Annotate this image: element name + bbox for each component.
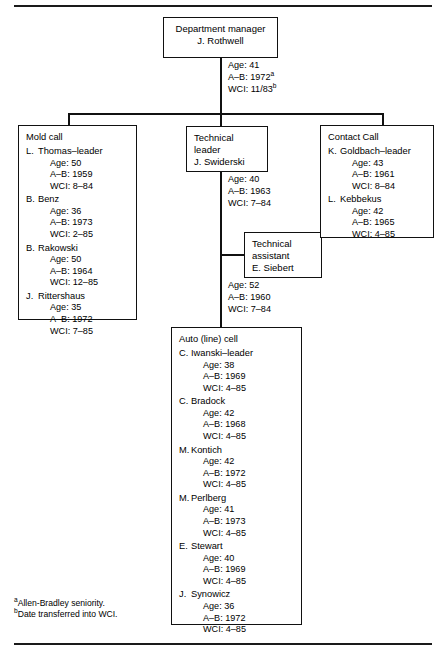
auto-cell-heading: Auto (line) cell [179,333,294,346]
list-item: J.Rittershaus Age: 35 A–B: 1972 WCI: 7–8… [26,290,129,337]
page-rule-top [14,5,432,7]
footnote-a: aAllen-Bradley seniority. [14,598,118,609]
footnote-ref-b: b [273,82,277,89]
technical-assistant-ab: A–B: 1960 [228,292,271,304]
technical-leader-wci: WCI: 7–84 [228,198,271,210]
node-mold-call[interactable]: Mold call L.Thomas–leader Age: 50 A–B: 1… [18,125,137,320]
person-ab: A–B: 1973 [26,217,129,229]
page-rule-bottom [14,643,432,645]
person-wci: WCI: 8–84 [328,181,426,193]
person-ab: A–B: 1973 [179,516,294,528]
mold-call-member-list: L.Thomas–leader Age: 50 A–B: 1959 WCI: 8… [26,145,129,337]
connector-drop-technical-leader [220,113,222,126]
technical-assistant-name: E. Siebert [252,262,314,274]
person-ab: A–B: 1964 [26,266,129,278]
connector-manager-down [220,58,222,114]
list-item: L.Kebbekus Age: 42 A–B: 1965 WCI: 4–85 [328,193,426,240]
person-wci: WCI: 2–85 [26,229,129,241]
list-item: K.Goldbach–leader Age: 43 A–B: 1961 WCI:… [328,145,426,192]
footnote-b: bDate transferred into WCI. [14,609,118,620]
person-name: E.Stewart [179,540,294,553]
connector-spine-technical-leader [220,172,222,327]
technical-assistant-title-1: Technical [252,238,314,250]
person-name: L.Thomas–leader [26,145,129,158]
node-auto-line-cell[interactable]: Auto (line) cell C.Iwanski–leader Age: 3… [171,327,302,625]
person-name: B.Benz [26,193,129,206]
person-name: C.Iwanski–leader [179,347,294,360]
technical-leader-title-1: Technical [194,132,260,144]
person-name: B.Rakowski [26,242,129,255]
technical-assistant-details: Age: 52 A–B: 1960 WCI: 7–84 [228,280,271,315]
footnotes: aAllen-Bradley seniority. bDate transfer… [14,598,118,620]
list-item: M.Kontich Age: 42 A–B: 1972 WCI: 4–85 [179,444,294,491]
technical-assistant-age: Age: 52 [228,280,271,292]
technical-leader-age: Age: 40 [228,174,271,186]
person-wci: WCI: 4–85 [179,576,294,588]
list-item: E.Stewart Age: 40 A–B: 1969 WCI: 4–85 [179,540,294,587]
node-contact-call[interactable]: Contact Call K.Goldbach–leader Age: 43 A… [320,125,434,238]
list-item: M.Perlberg Age: 41 A–B: 1973 WCI: 4–85 [179,492,294,539]
person-wci: WCI: 7–85 [26,326,129,338]
person-age: Age: 35 [26,302,129,314]
person-age: Age: 43 [328,158,426,170]
person-ab: A–B: 1972 [26,314,129,326]
manager-wci: WCI: 11/83b [228,84,276,96]
technical-leader-name: J. Swiderski [194,156,260,168]
technical-leader-ab: A–B: 1963 [228,186,271,198]
contact-call-member-list: K.Goldbach–leader Age: 43 A–B: 1961 WCI:… [328,145,426,241]
person-age: Age: 42 [179,456,294,468]
person-name: J.Synowicz [179,588,294,601]
technical-leader-title-2: leader [194,144,260,156]
footnote-ref-a: a [270,70,274,77]
person-age: Age: 36 [179,601,294,613]
person-name: L.Kebbekus [328,193,426,206]
person-name: K.Goldbach–leader [328,145,426,158]
list-item: B.Benz Age: 36 A–B: 1973 WCI: 2–85 [26,193,129,240]
list-item: J.Synowicz Age: 36 A–B: 1972 WCI: 4–85 [179,588,294,635]
person-name: J.Rittershaus [26,290,129,303]
person-name: M.Perlberg [179,492,294,505]
person-ab: A–B: 1969 [179,564,294,576]
person-age: Age: 36 [26,206,129,218]
person-age: Age: 41 [179,504,294,516]
person-ab: A–B: 1965 [328,217,426,229]
list-item: C.Bradock Age: 42 A–B: 1968 WCI: 4–85 [179,395,294,442]
person-age: Age: 50 [26,158,129,170]
person-wci: WCI: 8–84 [26,181,129,193]
department-manager-details: Age: 41 A–B: 1972a WCI: 11/83b [228,60,276,95]
connector-bus-horizontal [68,113,383,115]
person-wci: WCI: 4–85 [179,479,294,491]
mold-call-heading: Mold call [26,131,129,144]
person-ab: A–B: 1959 [26,169,129,181]
person-ab: A–B: 1968 [179,419,294,431]
person-ab: A–B: 1969 [179,371,294,383]
connector-drop-mold-call [68,113,70,125]
person-wci: WCI: 12–85 [26,277,129,289]
person-age: Age: 38 [179,360,294,372]
technical-assistant-title-2: assistant [252,250,314,262]
node-department-manager[interactable]: Department manager J. Rothwell [163,17,278,58]
connector-drop-contact-call [382,113,384,125]
person-wci: WCI: 4–85 [179,624,294,636]
person-wci: WCI: 4–85 [179,528,294,540]
person-age: Age: 42 [179,408,294,420]
list-item: C.Iwanski–leader Age: 38 A–B: 1969 WCI: … [179,347,294,394]
person-age: Age: 40 [179,553,294,565]
department-manager-title: Department manager [171,23,270,35]
connector-branch-technical-assistant [220,254,245,256]
person-age: Age: 42 [328,206,426,218]
person-wci: WCI: 4–85 [328,229,426,241]
person-age: Age: 50 [26,254,129,266]
person-wci: WCI: 4–85 [179,431,294,443]
person-name: C.Bradock [179,395,294,408]
list-item: L.Thomas–leader Age: 50 A–B: 1959 WCI: 8… [26,145,129,192]
technical-assistant-wci: WCI: 7–84 [228,304,271,316]
manager-ab: A–B: 1972a [228,72,276,84]
person-wci: WCI: 4–85 [179,383,294,395]
contact-call-heading: Contact Call [328,131,426,144]
person-ab: A–B: 1972 [179,613,294,625]
node-technical-assistant[interactable]: Technical assistant E. Siebert [244,232,322,278]
node-technical-leader[interactable]: Technical leader J. Swiderski [186,126,268,172]
person-name: M.Kontich [179,444,294,457]
department-manager-name: J. Rothwell [171,35,270,47]
